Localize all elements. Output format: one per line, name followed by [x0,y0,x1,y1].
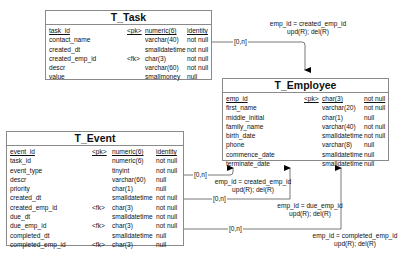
column-name: created_dt [49,45,80,54]
column-type: varchar(40) [145,35,179,44]
table-column-row[interactable]: prioritychar(1)null [10,184,180,193]
referential-rules: upd(R); del(R) [260,210,360,218]
rel-event-due-cardinality: [0,n] [212,195,227,203]
column-key: <pk> [304,94,319,103]
column-type: varchar(8) [322,140,352,149]
column-name: descr [10,175,26,184]
column-name: event_type [10,166,42,175]
column-type: numeric(6) [112,147,144,156]
column-name: contact_name [49,35,90,44]
rel-task-join-label: emp_id = created_emp_id upd(R); del(R) [258,20,358,36]
column-type: smalldatetime [112,212,153,221]
column-nullability: not null [156,156,177,165]
table-column-row[interactable]: birth_datesmalldatetimenot null [226,131,385,140]
referential-rules: upd(R); del(R) [203,186,303,194]
column-nullability: null [364,150,374,159]
column-type: numeric(6) [145,26,177,35]
table-column-row[interactable]: valuesmallmoneynull [49,72,208,81]
table-column-row[interactable]: due_dtsmalldatetimenot null [10,212,180,221]
table-column-row[interactable]: descrvarchar(60)null [10,175,180,184]
table-column-row[interactable]: created_dtsmalldatetimenot null [49,45,208,54]
column-nullability: not null [187,54,208,63]
column-nullability: null [156,231,166,240]
table-t-event[interactable]: T_Event event_id<pk>numeric(6)identityta… [6,131,184,246]
column-list: event_id<pk>numeric(6)identitytask_idnum… [7,146,183,251]
column-type: smalldatetime [112,231,153,240]
join-condition: emp_id = created_emp_id [203,178,303,186]
rel-event-created-cardinality: [0,n] [193,171,208,179]
column-type: tinyint [112,166,129,175]
table-column-row[interactable]: event_id<pk>numeric(6)identity [10,147,180,156]
column-nullability: null [364,113,374,122]
column-nullability: not null [187,35,208,44]
column-type: char(3) [112,240,133,249]
column-name: priority [10,184,30,193]
table-column-row[interactable]: created_emp_id<fk>char(3)not null [10,203,180,212]
column-name: completed_dt [10,231,50,240]
column-nullability: not null [187,45,208,54]
table-t-employee[interactable]: T_Employee emp_id<pk>char(3)not nullfirs… [222,78,389,161]
column-type: char(1) [112,184,133,193]
column-nullability: not null [156,193,177,202]
column-nullability: not null [156,212,177,221]
table-column-row[interactable]: contact_namevarchar(40)not null [49,35,208,44]
table-column-row[interactable]: event_typetinyintnot null [10,166,180,175]
table-column-row[interactable]: terminate_datesmalldatetimenull [226,159,385,168]
column-name: created_emp_id [49,54,96,63]
table-column-row[interactable]: task_idnumeric(6)not null [10,156,180,165]
table-column-row[interactable]: created_dtsmalldatetimenot null [10,193,180,202]
column-type: smalldatetime [322,159,363,168]
column-name: completed_emp_id [10,240,66,249]
column-type: smalldatetime [112,193,153,202]
column-name: event_id [10,147,35,156]
column-list: emp_id<pk>char(3)not nullfirst_namevarch… [223,93,388,170]
column-name: middle_initial [226,113,264,122]
table-column-row[interactable]: phonevarchar(8)null [226,140,385,149]
column-nullability: identity [187,26,208,35]
column-name: phone [226,140,244,149]
table-column-row[interactable]: middle_initialchar(1)null [226,113,385,122]
table-column-row[interactable]: descrvarchar(60)not null [49,63,208,72]
column-key: <fk> [92,221,105,230]
column-type: smalldatetime [145,45,186,54]
table-column-row[interactable]: due_emp_id<fk>char(3)not null [10,221,180,230]
table-column-row[interactable]: family_namevarchar(40)not null [226,122,385,131]
column-name: created_dt [10,193,41,202]
table-column-row[interactable]: completed_emp_id<fk>char(3)null [10,240,180,249]
column-name: due_emp_id [10,221,46,230]
column-type: smallmoney [145,72,180,81]
table-title: T_Event [7,132,183,146]
join-condition: emp_id = completed_emp_id [300,232,401,240]
column-key: <fk> [92,240,105,249]
column-key: <fk> [127,54,140,63]
table-column-row[interactable]: commence_datesmalldatetimenull [226,150,385,159]
column-type: char(3) [145,54,166,63]
table-column-row[interactable]: task_id<pk>numeric(6)identity [49,26,208,35]
column-type: numeric(6) [112,156,144,165]
table-column-row[interactable]: created_emp_id<fk>char(3)not null [49,54,208,63]
column-key: <pk> [127,26,142,35]
column-nullability: not null [156,166,177,175]
table-column-row[interactable]: first_namevarchar(20)not null [226,103,385,112]
column-nullability: null [156,175,166,184]
column-name: family_name [226,122,263,131]
column-type: char(3) [322,94,343,103]
column-type: smalldatetime [322,150,363,159]
column-nullability: not null [364,131,385,140]
join-condition: emp_id = created_emp_id [258,20,358,28]
column-name: commence_date [226,150,275,159]
column-nullability: null [364,140,374,149]
column-type: varchar(60) [145,63,179,72]
column-type: smalldatetime [322,131,363,140]
column-name: due_dt [10,212,30,221]
table-t-task[interactable]: T_Task task_id<pk>numeric(6)identitycont… [45,10,212,80]
table-column-row[interactable]: completed_dtsmalldatetimenull [10,231,180,240]
column-nullability: not null [156,203,177,212]
table-column-row[interactable]: emp_id<pk>char(3)not null [226,94,385,103]
column-nullability: null [156,184,166,193]
column-name: task_id [10,156,31,165]
column-type: varchar(20) [322,103,356,112]
column-key: <fk> [92,203,105,212]
column-name: value [49,72,65,81]
column-name: emp_id [226,94,248,103]
